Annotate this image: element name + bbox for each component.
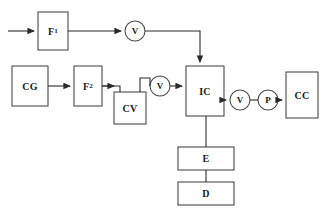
node-box-D[interactable] bbox=[178, 182, 234, 205]
node-box-F2[interactable] bbox=[74, 66, 102, 106]
diagram-canvas bbox=[0, 0, 321, 216]
node-box-CG[interactable] bbox=[12, 66, 48, 106]
connector-V1-to-IC bbox=[145, 31, 200, 62]
node-circle-P[interactable] bbox=[258, 90, 278, 110]
node-circle-V3[interactable] bbox=[230, 90, 250, 110]
node-box-CV[interactable] bbox=[114, 92, 146, 124]
node-box-E[interactable] bbox=[178, 147, 234, 170]
node-box-IC[interactable] bbox=[186, 66, 224, 116]
node-circle-V1[interactable] bbox=[125, 21, 145, 41]
connector-F2-to-CV bbox=[102, 86, 120, 92]
node-box-CC[interactable] bbox=[286, 72, 318, 118]
process-flow-diagram: F1 V CG F2 CV V IC V P CC E D bbox=[0, 0, 321, 216]
node-circle-V2[interactable] bbox=[150, 76, 170, 96]
connector-CV-to-V2 bbox=[140, 78, 150, 92]
node-box-F1[interactable] bbox=[38, 12, 68, 50]
